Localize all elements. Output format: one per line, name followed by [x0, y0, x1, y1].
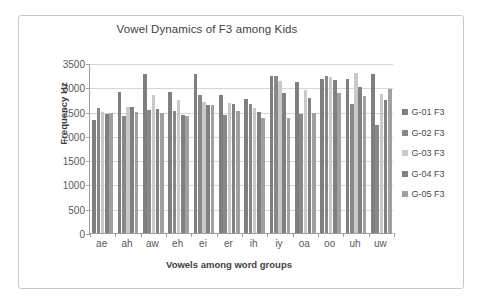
x-axis-tick-label: er	[224, 238, 233, 249]
bar	[261, 118, 265, 233]
bar	[371, 74, 375, 233]
legend-swatch-icon	[402, 109, 408, 115]
bar	[253, 108, 257, 233]
bar	[333, 80, 337, 233]
bar	[181, 115, 185, 234]
bar	[92, 120, 96, 233]
bar	[147, 110, 151, 233]
bar	[295, 82, 299, 233]
bar	[375, 125, 379, 233]
bar	[287, 118, 291, 233]
bar	[346, 79, 350, 233]
bar	[320, 79, 324, 233]
y-axis-tick-label: 1000	[63, 180, 85, 191]
bar	[354, 73, 358, 233]
y-axis-tick-labels: 0500100015002000250030003500	[19, 64, 89, 234]
x-axis-tick-label: oa	[299, 238, 310, 249]
x-axis-tick-label: uh	[349, 238, 360, 249]
x-axis-tick-label: ae	[96, 238, 107, 249]
legend-item[interactable]: G-01 F3	[402, 102, 464, 123]
bar	[198, 95, 202, 233]
bar	[194, 74, 198, 233]
bar	[337, 93, 341, 233]
bar-group	[267, 64, 292, 233]
bar-group	[369, 64, 394, 233]
bar	[325, 76, 329, 233]
bar-group	[166, 64, 191, 233]
legend-item[interactable]: G-02 F3	[402, 123, 464, 144]
y-axis-tick-label: 1500	[63, 156, 85, 167]
legend-item[interactable]: G-04 F3	[402, 164, 464, 185]
x-axis-tick	[318, 233, 319, 237]
bar	[101, 112, 105, 233]
legend-swatch-icon	[402, 191, 408, 197]
bar	[304, 90, 308, 233]
x-axis-tick-label: ih	[250, 238, 258, 249]
chart-title-text: Vowel Dynamics of F3 among Kids	[117, 23, 298, 35]
bar	[388, 89, 392, 233]
bar	[299, 114, 303, 233]
bar	[282, 93, 286, 233]
bar	[380, 94, 384, 233]
legend-swatch-icon	[402, 150, 408, 156]
bar-group	[90, 64, 115, 233]
x-axis-tick	[115, 233, 116, 237]
legend-item-label: G-05 F3	[412, 189, 445, 199]
bar-group	[141, 64, 166, 233]
legend-item[interactable]: G-05 F3	[402, 184, 464, 205]
x-axis-tick-label: ah	[121, 238, 132, 249]
bar	[228, 103, 232, 233]
legend-swatch-icon	[402, 171, 408, 177]
bar-group	[191, 64, 216, 233]
bar	[109, 113, 113, 233]
x-axis-tick-label: eh	[172, 238, 183, 249]
bar	[270, 76, 274, 233]
legend-item[interactable]: G-03 F3	[402, 143, 464, 164]
bar	[219, 95, 223, 233]
bar	[105, 114, 109, 233]
legend-item-label: G-02 F3	[412, 128, 445, 138]
x-axis-tick	[242, 233, 243, 237]
chart-title: Vowel Dynamics of F3 among Kids	[19, 23, 463, 35]
bar	[122, 116, 126, 233]
bar-group	[242, 64, 267, 233]
bar-group	[318, 64, 343, 233]
bar	[118, 92, 122, 233]
bar	[249, 104, 253, 233]
bar	[257, 112, 261, 233]
y-axis-tick-label: 500	[68, 204, 85, 215]
bar	[206, 105, 210, 233]
y-axis-tick-label: 2500	[63, 107, 85, 118]
bar	[350, 104, 354, 233]
bar	[173, 111, 177, 233]
chart-frame: Vowel Dynamics of F3 among Kids Frequenc…	[18, 15, 464, 289]
legend-item-label: G-03 F3	[412, 148, 445, 158]
bar	[308, 98, 312, 233]
bar	[168, 92, 172, 233]
bar	[236, 111, 240, 233]
y-axis-tick-label: 0	[79, 229, 85, 240]
bar	[135, 112, 139, 233]
x-axis-tick	[343, 233, 344, 237]
bar	[384, 100, 388, 233]
legend-swatch-icon	[402, 130, 408, 136]
x-axis-tick-label: oo	[324, 238, 335, 249]
x-axis-tick	[90, 233, 91, 237]
x-axis-tick-label: uw	[374, 238, 387, 249]
x-axis-tick-label: ei	[199, 238, 207, 249]
y-axis-tick-label: 3000	[63, 83, 85, 94]
x-axis-tick-label: iy	[275, 238, 282, 249]
bar	[185, 116, 189, 233]
x-axis-tick	[394, 233, 395, 237]
bar	[312, 113, 316, 233]
x-axis-tick	[267, 233, 268, 237]
bar	[232, 104, 236, 233]
chart-legend: G-01 F3G-02 F3G-03 F3G-04 F3G-05 F3	[402, 102, 464, 205]
bar	[211, 105, 215, 233]
bar	[152, 95, 156, 233]
bar	[177, 100, 181, 233]
bar	[278, 81, 282, 233]
bar	[156, 109, 160, 233]
legend-item-label: G-04 F3	[412, 169, 445, 179]
bar-group	[343, 64, 368, 233]
